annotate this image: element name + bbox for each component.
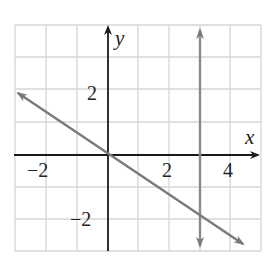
x-tick-neg2: −2 <box>27 159 48 181</box>
grid <box>15 25 261 251</box>
y-tick-2: 2 <box>87 82 97 104</box>
y-tick-neg2: −2 <box>70 208 91 230</box>
x-tick-2: 2 <box>162 159 172 181</box>
x-axis-label: x <box>244 125 255 149</box>
x-tick-4: 4 <box>223 159 233 181</box>
coordinate-plane: y x −2 2 4 2 −2 <box>0 0 273 268</box>
line-y-neg-two-thirds-x <box>18 93 243 244</box>
y-axis-label: y <box>113 26 125 50</box>
